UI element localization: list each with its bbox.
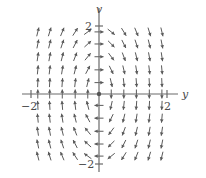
arrowhead-icon [147, 145, 150, 149]
arrowhead-icon [95, 129, 98, 133]
arrowhead-icon [100, 81, 103, 85]
arrowhead-icon [48, 101, 52, 104]
arrowhead-icon [73, 90, 77, 93]
arrowhead-icon [95, 142, 98, 146]
arrowhead-icon [148, 45, 151, 49]
arrowhead-icon [122, 95, 126, 98]
arrowhead-icon [109, 106, 113, 110]
arrowhead-icon [73, 114, 76, 118]
x-tick-label-max: 2 [164, 100, 171, 113]
y-tick-label-min: −2 [78, 158, 94, 171]
arrowhead-icon [134, 132, 137, 136]
arrowhead-icon [100, 55, 103, 59]
arrowhead-icon [160, 119, 164, 122]
arrowhead-icon [160, 95, 164, 98]
arrowhead-icon [36, 90, 40, 93]
arrowhead-icon [122, 119, 126, 123]
y-axis-label: v [96, 3, 103, 16]
arrowhead-icon [148, 84, 152, 87]
arrowhead-icon [86, 90, 90, 93]
arrowhead-icon [95, 116, 98, 120]
arrowhead-icon [160, 145, 164, 148]
arrowhead-icon [60, 127, 63, 131]
arrowhead-icon [36, 78, 40, 81]
x-tick-label-min: −2 [21, 100, 37, 113]
arrowhead-icon [95, 104, 98, 108]
arrowhead-icon [100, 68, 103, 72]
arrowhead-icon [48, 40, 51, 44]
arrowhead-icon [148, 95, 152, 98]
arrowhead-icon [95, 154, 98, 158]
arrowhead-icon [61, 78, 65, 81]
arrowhead-icon [110, 83, 114, 87]
arrowhead-icon [36, 152, 39, 156]
x-axis-label: y [181, 88, 189, 101]
arrowhead-icon [160, 33, 163, 37]
arrowhead-icon [36, 140, 40, 143]
arrowhead-icon [36, 28, 39, 32]
arrowhead-icon [60, 101, 64, 104]
arrowhead-icon [74, 65, 77, 69]
arrowhead-icon [61, 52, 64, 56]
arrowhead-icon [160, 157, 163, 161]
arrowhead-icon [36, 114, 40, 117]
arrowhead-icon [135, 107, 139, 110]
arrowhead-icon [86, 101, 89, 105]
arrowhead-icon [135, 58, 138, 62]
arrowhead-icon [147, 107, 151, 110]
arrowhead-icon [135, 95, 139, 98]
arrowhead-icon [122, 84, 126, 87]
origin-dot [97, 92, 101, 96]
arrowhead-icon [100, 42, 103, 46]
arrowhead-icon [122, 71, 126, 75]
arrowhead-icon [48, 140, 51, 144]
arrowhead-icon [160, 45, 164, 48]
arrowhead-icon [109, 95, 113, 98]
arrowhead-icon [122, 106, 126, 109]
arrowhead-icon [160, 71, 164, 74]
y-tick-label-max: 2 [85, 20, 92, 33]
arrowhead-icon [100, 30, 103, 34]
arrowhead-icon [86, 78, 89, 82]
arrowhead-icon [160, 84, 164, 87]
arrowhead-icon [48, 90, 52, 93]
arrowhead-icon [60, 90, 64, 93]
arrowhead-icon [135, 84, 139, 87]
arrowhead-icon [36, 40, 40, 43]
direction-field-plot: v y −2 2 2 −2 [0, 0, 206, 178]
arrowhead-icon [48, 78, 52, 81]
arrowhead-icon [36, 65, 40, 68]
